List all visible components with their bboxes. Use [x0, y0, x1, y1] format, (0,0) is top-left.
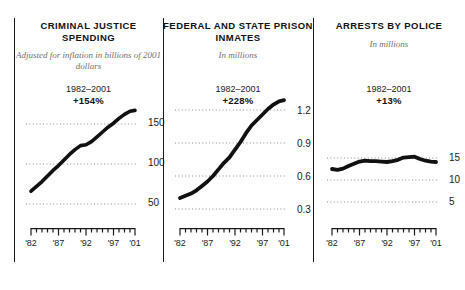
ytick-label-0-6: 0.6 — [297, 172, 311, 182]
ytick-label-50: 50 — [148, 198, 159, 208]
xtick-label-87: '87 — [53, 238, 65, 248]
x-axis: '82 '87 '92 '97 '01 — [175, 228, 291, 250]
plot-area — [175, 92, 291, 224]
x-axis-labels: '82 '87 '92 '97 '01 — [26, 238, 142, 250]
panel-header: CRIMINAL JUSTICE SPENDING Adjusted for i… — [14, 20, 163, 72]
panel-subtitle: In millions — [313, 39, 465, 50]
data-line-arrests — [332, 157, 436, 170]
xtick-label-01: '01 — [430, 238, 442, 248]
x-axis: '82 '87 '92 '97 '01 — [327, 228, 443, 250]
panel-change-annotation: 1982–2001 +13% — [313, 84, 465, 107]
chart-panel-arrests-by-police: ARRESTS BY POLICE In millions 1982–2001 … — [313, 0, 465, 290]
panel-header: ARRESTS BY POLICE In millions — [313, 20, 465, 50]
xtick-label-82: '82 — [174, 238, 186, 248]
panel-subtitle: Adjusted for inflation in billions of 20… — [14, 50, 163, 72]
line-chart-svg — [175, 92, 291, 224]
line-chart-svg — [26, 104, 142, 224]
x-axis-ticks — [175, 228, 291, 237]
xtick-label-92: '92 — [229, 238, 241, 248]
x-axis-ticks — [327, 228, 443, 237]
xtick-label-97: '97 — [257, 238, 269, 248]
panel-subtitle: In millions — [163, 50, 313, 61]
xtick-label-92: '92 — [381, 238, 393, 248]
x-axis-labels: '82 '87 '92 '97 '01 — [175, 238, 291, 250]
chart-panel-criminal-justice-spending: CRIMINAL JUSTICE SPENDING Adjusted for i… — [14, 0, 163, 290]
panel-header: FEDERAL AND STATE PRISON INMATES In mill… — [163, 20, 313, 61]
x-axis-ticks — [26, 228, 142, 237]
xtick-label-92: '92 — [80, 238, 92, 248]
xtick-label-82: '82 — [326, 238, 338, 248]
ytick-label-10: 10 — [449, 175, 460, 185]
line-chart-svg — [327, 140, 443, 224]
data-line-spending — [31, 110, 135, 191]
x-axis-labels: '82 '87 '92 '97 '01 — [327, 238, 443, 250]
panel-title: CRIMINAL JUSTICE SPENDING — [14, 20, 163, 43]
gridlines — [26, 124, 136, 204]
xtick-label-87: '87 — [354, 238, 366, 248]
xtick-label-97: '97 — [409, 238, 421, 248]
ytick-label-5: 5 — [449, 197, 455, 207]
ytick-label-0-3: 0.3 — [297, 205, 311, 215]
data-line-inmates — [180, 100, 284, 198]
xtick-label-82: '82 — [25, 238, 37, 248]
three-panel-chart-figure: CRIMINAL JUSTICE SPENDING Adjusted for i… — [0, 0, 465, 290]
ytick-label-15: 15 — [449, 153, 460, 163]
plot-area — [26, 104, 142, 224]
xtick-label-01: '01 — [129, 238, 141, 248]
xtick-label-97: '97 — [108, 238, 120, 248]
ytick-label-1-2: 1.2 — [297, 106, 311, 116]
x-axis: '82 '87 '92 '97 '01 — [26, 228, 142, 250]
change-years: 1982–2001 — [313, 84, 465, 95]
gridlines — [327, 158, 437, 202]
chart-panel-prison-inmates: FEDERAL AND STATE PRISON INMATES In mill… — [163, 0, 313, 290]
ytick-label-0-9: 0.9 — [297, 139, 311, 149]
xtick-label-01: '01 — [278, 238, 290, 248]
change-years: 1982–2001 — [14, 84, 163, 95]
plot-area — [327, 140, 443, 224]
panel-title: ARRESTS BY POLICE — [313, 20, 465, 32]
xtick-label-87: '87 — [202, 238, 214, 248]
change-percent: +13% — [313, 95, 465, 107]
panel-title: FEDERAL AND STATE PRISON INMATES — [163, 20, 313, 43]
